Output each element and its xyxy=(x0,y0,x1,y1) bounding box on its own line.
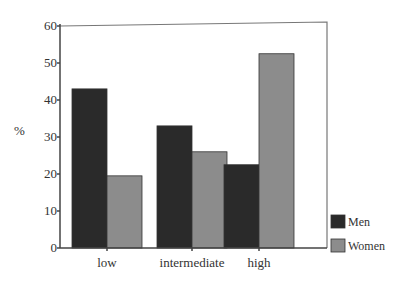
y-tick-label: 50 xyxy=(44,55,57,70)
x-label-high: high xyxy=(247,255,271,270)
y-axis-label: % xyxy=(14,123,25,138)
legend-label-women: Women xyxy=(348,239,385,253)
bar-chart: 0102030405060 lowintermediatehigh % MenW… xyxy=(0,0,400,284)
bar-intermediate-men xyxy=(157,126,192,248)
bars xyxy=(72,54,294,248)
y-tick-label: 40 xyxy=(44,92,57,107)
x-axis-ticks: lowintermediatehigh xyxy=(97,248,271,270)
y-tick-label: 30 xyxy=(44,129,57,144)
y-tick-label: 10 xyxy=(44,203,57,218)
x-label-low: low xyxy=(97,255,117,270)
x-label-intermediate: intermediate xyxy=(160,255,225,270)
legend: MenWomen xyxy=(331,215,385,253)
y-axis-ticks: 0102030405060 xyxy=(44,18,60,255)
bar-low-men xyxy=(72,89,107,248)
y-tick-label: 20 xyxy=(44,166,57,181)
bar-low-women xyxy=(107,176,142,248)
bar-high-women xyxy=(259,54,294,248)
bar-intermediate-women xyxy=(192,152,227,248)
legend-swatch-women xyxy=(331,239,345,252)
bar-high-men xyxy=(224,165,259,248)
y-tick-label: 0 xyxy=(51,240,58,255)
legend-label-men: Men xyxy=(348,215,370,229)
legend-swatch-men xyxy=(331,215,345,228)
y-tick-label: 60 xyxy=(44,18,57,33)
